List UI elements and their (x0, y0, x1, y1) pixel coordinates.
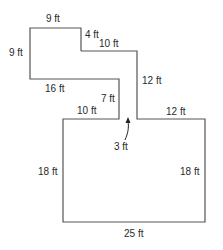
label-step-down: 4 ft (85, 30, 99, 40)
label-big-right-height: 18 ft (180, 167, 199, 177)
label-inner-horizontal: 10 ft (77, 106, 96, 116)
label-upper-corridor-width: 10 ft (99, 39, 118, 49)
label-bottom-width: 25 ft (124, 229, 143, 239)
gap-arrow (125, 121, 128, 140)
label-right-ledge-width: 12 ft (166, 107, 185, 117)
outer-wall (30, 28, 205, 222)
label-gap: 3 ft (114, 142, 128, 152)
label-inner-vertical: 7 ft (101, 94, 115, 104)
label-left-height: 9 ft (9, 48, 23, 58)
label-corridor-right-height: 12 ft (142, 76, 161, 86)
label-top-left-width: 9 ft (46, 14, 60, 24)
label-big-left-height: 18 ft (38, 167, 57, 177)
arrow-head-icon (126, 117, 131, 123)
label-lower-left-width: 16 ft (45, 84, 64, 94)
